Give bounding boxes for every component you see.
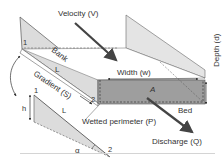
bed-label: Bed [178, 106, 192, 115]
discharge-label: Discharge (Q) [152, 137, 202, 146]
triangle-L-label: L [62, 106, 66, 115]
triangle-h-label: h [22, 104, 26, 113]
velocity-label: Velocity (V) [58, 9, 99, 18]
wetted-perimeter-label: Wetted perimeter (P) [82, 117, 156, 126]
bank-length-label: L [55, 65, 60, 74]
bottom-divider [20, 153, 215, 154]
point-2-top-label: 2 [91, 95, 95, 104]
triangle-1-label: 1 [34, 86, 38, 95]
point-1-top-label: 1 [23, 38, 27, 47]
depth-label: Depth (d) [212, 33, 221, 67]
channel-flow-diagram: Velocity (V) Width (w) Depth (d) Bank L … [0, 0, 223, 159]
width-label: Width (w) [117, 68, 151, 77]
area-label: A [149, 85, 155, 94]
curved-link-arrow [10, 56, 20, 96]
